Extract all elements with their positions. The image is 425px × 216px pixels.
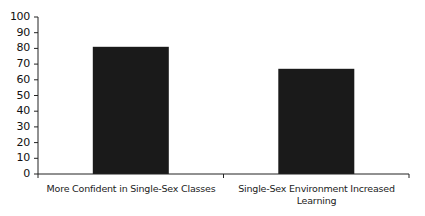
- category-label-1-text: More Confident in Single-Sex Classes: [47, 183, 216, 194]
- bar-2: [278, 69, 354, 174]
- y-tick-label: 10: [2, 152, 30, 163]
- bar-chart: 0102030405060708090100 More Confident in…: [0, 0, 425, 216]
- y-tick-label: 90: [2, 27, 30, 38]
- y-tick-label: 70: [2, 58, 30, 69]
- y-tick-label: 80: [2, 42, 30, 53]
- category-label-2-line2: Learning: [297, 195, 337, 206]
- y-tick-label: 50: [2, 90, 30, 101]
- y-tick-label: 20: [2, 137, 30, 148]
- category-label-2: Single-Sex Environment Increased Learnin…: [224, 183, 409, 207]
- y-tick-label: 40: [2, 105, 30, 116]
- y-tick-label: 60: [2, 74, 30, 85]
- bar-1: [93, 47, 169, 174]
- y-tick-label: 100: [2, 11, 30, 22]
- y-tick-label: 30: [2, 121, 30, 132]
- category-label-1: More Confident in Single-Sex Classes: [38, 183, 224, 195]
- category-label-2-line1: Single-Sex Environment Increased: [238, 183, 395, 194]
- y-tick-label: 0: [2, 168, 30, 179]
